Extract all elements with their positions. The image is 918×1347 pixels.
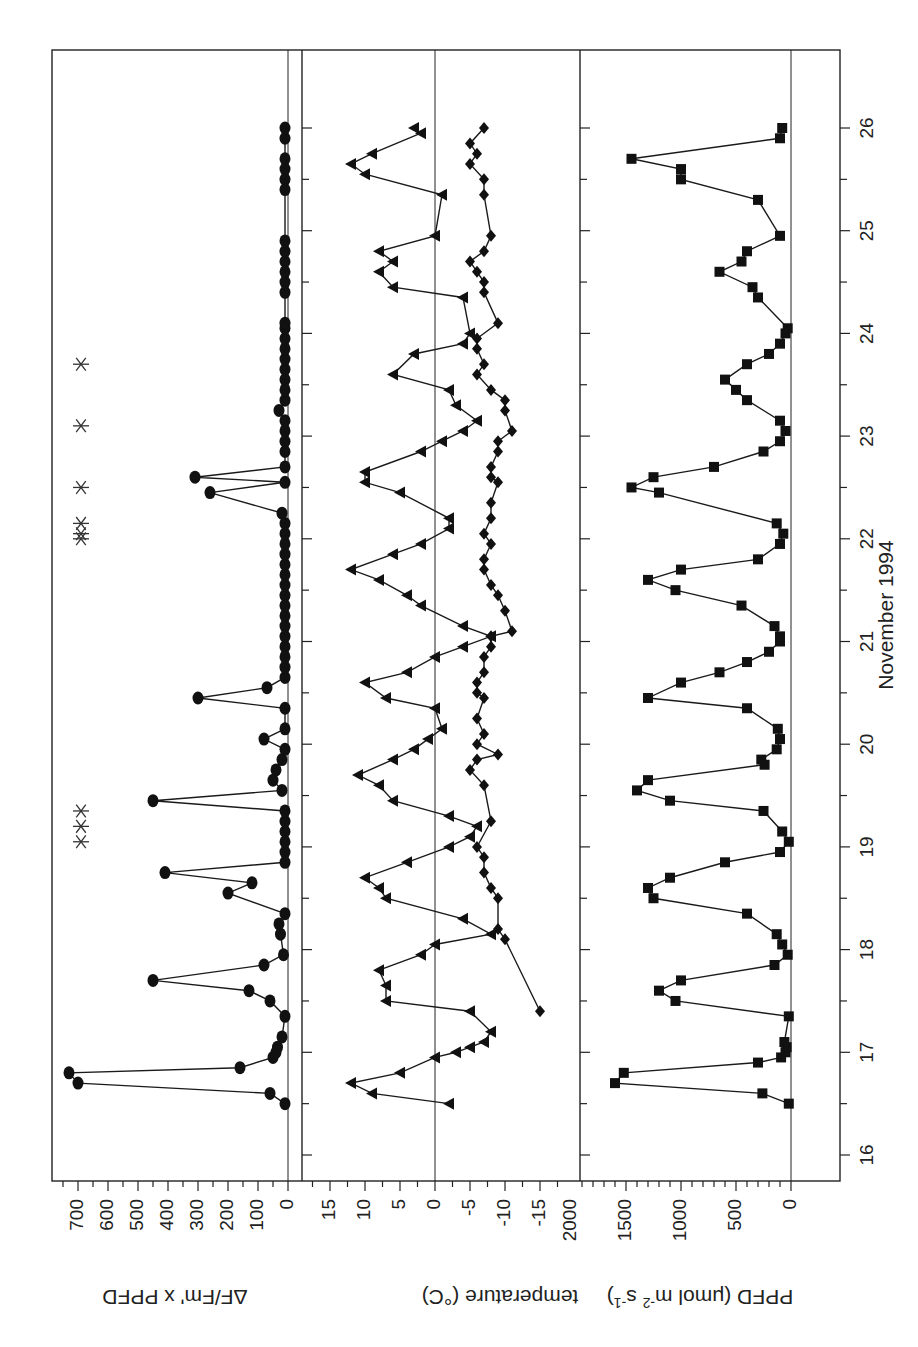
triangle-marker — [457, 641, 468, 653]
chart-canvas: 1617181920212223242526 01002003004005006… — [0, 0, 918, 1347]
diamond-marker — [493, 317, 503, 329]
square-marker — [731, 385, 741, 395]
circle-marker — [235, 1061, 246, 1074]
triangle-marker — [401, 856, 412, 868]
y-axis-title-ppfd: PPFD (μmol m-2 s-1) — [607, 1286, 793, 1311]
ppfd-label-sup1: -2 — [642, 1295, 655, 1311]
square-marker — [777, 826, 787, 836]
x-tick-label: 23 — [856, 426, 877, 447]
y-tick-label: 0 — [779, 1199, 800, 1210]
series-event-markers — [73, 358, 89, 848]
circle-marker — [259, 733, 270, 746]
y-axis-title-temperature: temperature (°C) — [422, 1286, 579, 1309]
square-marker — [676, 678, 686, 688]
diamond-marker — [493, 446, 503, 458]
outer-frame — [52, 50, 840, 1181]
square-marker — [773, 724, 783, 734]
series--f-fm-x-ppfd — [64, 122, 291, 1111]
square-marker — [742, 395, 752, 405]
y-tick-label: 10 — [353, 1199, 374, 1220]
square-marker — [676, 565, 686, 575]
square-marker — [742, 703, 752, 713]
square-marker — [676, 164, 686, 174]
y-tick-label: 1500 — [614, 1199, 635, 1241]
series-ppfd — [610, 123, 794, 1109]
square-marker — [720, 375, 730, 385]
triangle-marker — [457, 913, 468, 925]
circle-marker — [64, 1066, 75, 1079]
series-line — [69, 128, 285, 1104]
square-marker — [770, 621, 780, 631]
diamond-marker — [486, 512, 496, 524]
circle-marker — [190, 471, 201, 484]
asterisk-marker — [73, 835, 89, 848]
circle-marker — [265, 994, 276, 1007]
triangle-marker — [415, 949, 426, 961]
square-marker — [756, 755, 766, 765]
diamond-marker — [479, 189, 489, 201]
circle-marker — [280, 722, 291, 735]
triangle-marker — [422, 733, 433, 745]
square-marker — [775, 339, 785, 349]
y-tick-label: 500 — [126, 1199, 147, 1231]
square-marker — [676, 975, 686, 985]
triangle-marker — [387, 256, 398, 268]
y-tick-label: -15 — [528, 1199, 549, 1226]
triangle-marker — [359, 872, 370, 884]
square-marker — [632, 785, 642, 795]
triangle-marker — [373, 574, 384, 586]
square-marker — [627, 482, 637, 492]
x-tick-label: 26 — [856, 117, 877, 138]
x-tick-label: 25 — [856, 220, 877, 241]
triangle-marker — [366, 1087, 377, 1099]
triangle-marker — [457, 291, 468, 303]
square-marker — [781, 426, 791, 436]
circle-marker — [148, 974, 159, 987]
diamond-marker — [486, 497, 496, 509]
square-marker — [742, 657, 752, 667]
circle-marker — [280, 476, 291, 489]
triangle-marker — [345, 158, 356, 170]
triangle-marker — [478, 1036, 489, 1048]
square-marker — [775, 847, 785, 857]
ppfd-label-end: ) — [607, 1286, 614, 1309]
triangle-marker — [450, 1046, 461, 1058]
circle-marker — [244, 984, 255, 997]
square-marker — [715, 667, 725, 677]
circle-marker — [247, 876, 258, 889]
series-line — [615, 128, 789, 1104]
plot-frame — [52, 50, 840, 1181]
square-marker — [649, 893, 659, 903]
y-tick-label: 300 — [186, 1199, 207, 1231]
triangle-marker — [380, 692, 391, 704]
square-marker — [742, 246, 752, 256]
square-marker — [775, 133, 785, 143]
square-marker — [772, 744, 782, 754]
square-marker — [775, 416, 785, 426]
circle-marker — [280, 460, 291, 473]
triangle-marker — [464, 1041, 475, 1053]
square-marker — [775, 231, 785, 241]
square-marker — [778, 529, 788, 539]
triangle-marker — [373, 964, 384, 976]
ppfd-label-sup2: -1 — [614, 1295, 627, 1311]
asterisk-marker — [73, 805, 89, 818]
square-marker — [715, 267, 725, 277]
y-tick-label: 0 — [276, 1199, 297, 1210]
triangle-marker — [436, 435, 447, 447]
diamond-marker — [500, 394, 510, 406]
square-marker — [671, 585, 681, 595]
y-tick-label: 200 — [216, 1199, 237, 1231]
circle-marker — [280, 152, 291, 165]
square-marker — [775, 631, 785, 641]
diamond-marker — [479, 286, 489, 298]
y-axes: 0100200300400500600700-15-10-50510150500… — [63, 1181, 800, 1241]
triangle-marker — [408, 743, 419, 755]
square-marker — [665, 796, 675, 806]
square-marker — [753, 1058, 763, 1068]
diamond-marker — [493, 748, 503, 760]
circle-marker — [265, 1087, 276, 1100]
square-marker — [671, 996, 681, 1006]
asterisk-marker — [73, 358, 89, 371]
triangle-marker — [387, 548, 398, 560]
